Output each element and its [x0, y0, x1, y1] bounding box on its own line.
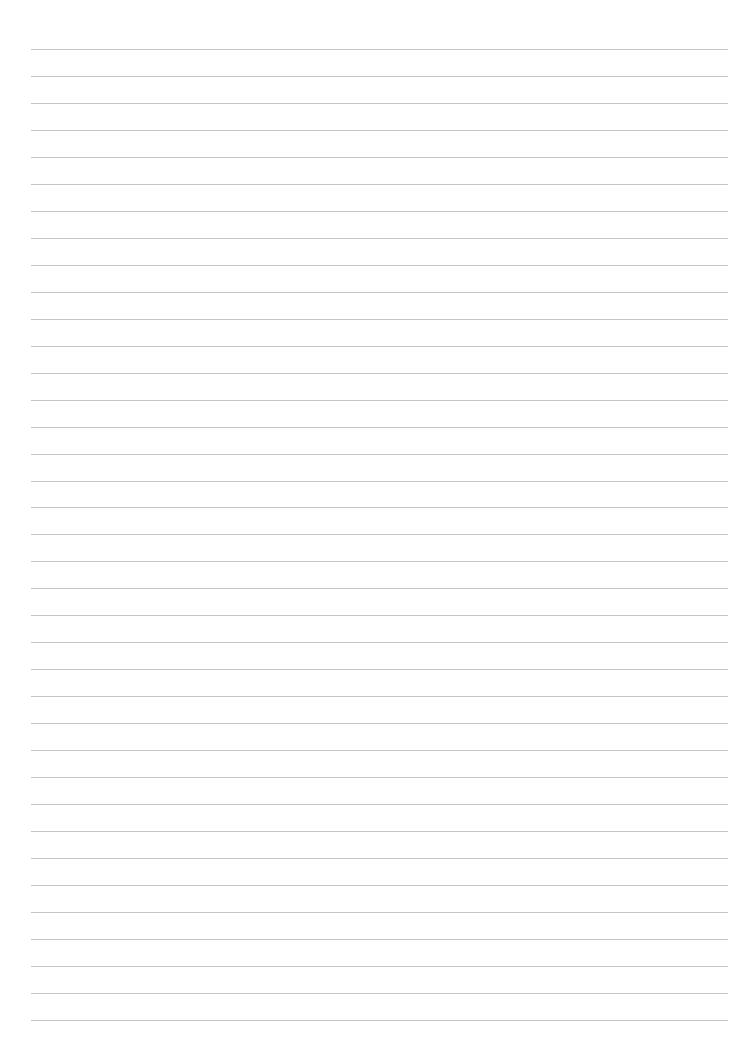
ruled-line [31, 373, 728, 374]
ruled-line [31, 76, 728, 77]
ruled-line [31, 130, 728, 131]
ruled-line [31, 400, 728, 401]
ruled-line [31, 238, 728, 239]
ruled-line [31, 534, 728, 535]
ruled-line [31, 561, 728, 562]
ruled-line [31, 885, 728, 886]
ruled-line [31, 966, 728, 967]
ruled-line [31, 642, 728, 643]
ruled-line [31, 184, 728, 185]
ruled-line [31, 1020, 728, 1021]
ruled-line [31, 346, 728, 347]
ruled-line [31, 265, 728, 266]
ruled-line [31, 831, 728, 832]
ruled-line [31, 49, 728, 50]
ruled-line [31, 481, 728, 482]
ruled-line [31, 912, 728, 913]
ruled-line [31, 507, 728, 508]
ruled-line [31, 939, 728, 940]
ruled-line [31, 750, 728, 751]
ruled-line [31, 427, 728, 428]
lined-paper-page [0, 0, 734, 1056]
ruled-line [31, 211, 728, 212]
ruled-line [31, 292, 728, 293]
ruled-line [31, 319, 728, 320]
ruled-line [31, 696, 728, 697]
ruled-line [31, 615, 728, 616]
ruled-line [31, 777, 728, 778]
ruled-line [31, 858, 728, 859]
ruled-line [31, 588, 728, 589]
ruled-line [31, 993, 728, 994]
ruled-line [31, 804, 728, 805]
ruled-line [31, 669, 728, 670]
ruled-line [31, 103, 728, 104]
ruled-line [31, 723, 728, 724]
ruled-line [31, 157, 728, 158]
ruled-line [31, 454, 728, 455]
